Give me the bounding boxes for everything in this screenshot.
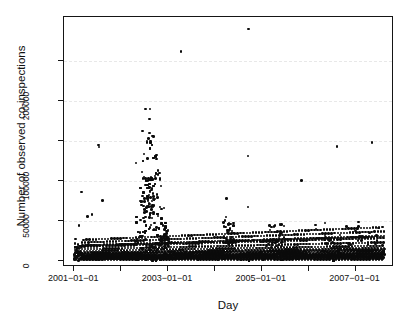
data-point bbox=[197, 259, 200, 262]
data-point bbox=[148, 132, 151, 135]
data-point bbox=[139, 231, 142, 234]
plot-area bbox=[64, 17, 392, 265]
data-point bbox=[261, 241, 264, 244]
data-point bbox=[151, 217, 154, 220]
data-point bbox=[141, 195, 144, 198]
data-point bbox=[293, 253, 296, 256]
data-point bbox=[101, 199, 104, 202]
data-point bbox=[381, 226, 384, 229]
x-axis-title: Day bbox=[63, 299, 393, 311]
data-point bbox=[98, 146, 101, 149]
data-point bbox=[300, 179, 303, 182]
data-point bbox=[333, 232, 336, 235]
data-point bbox=[144, 231, 147, 234]
data-point bbox=[308, 243, 311, 246]
data-point bbox=[148, 248, 151, 251]
data-point bbox=[247, 155, 250, 158]
data-point bbox=[226, 230, 229, 233]
y-axis-tick bbox=[58, 180, 63, 181]
data-point bbox=[222, 236, 225, 239]
data-point bbox=[143, 220, 146, 223]
data-point bbox=[225, 197, 228, 200]
data-point bbox=[135, 221, 138, 224]
data-point bbox=[377, 230, 380, 233]
data-point bbox=[379, 256, 382, 259]
data-point bbox=[179, 238, 182, 241]
data-point bbox=[258, 231, 261, 234]
gridline bbox=[64, 141, 392, 142]
data-point bbox=[150, 208, 153, 211]
data-point bbox=[125, 237, 128, 240]
data-point bbox=[248, 259, 251, 262]
data-point bbox=[148, 179, 151, 182]
data-point bbox=[224, 226, 227, 229]
data-point bbox=[225, 216, 228, 219]
data-point bbox=[383, 253, 386, 256]
data-point bbox=[139, 235, 142, 238]
data-point bbox=[375, 234, 378, 237]
data-point bbox=[151, 187, 154, 190]
data-point bbox=[300, 233, 303, 236]
data-point bbox=[87, 256, 90, 259]
data-point bbox=[269, 234, 272, 237]
y-axis-tick-label: 0 bbox=[21, 263, 31, 268]
data-point bbox=[165, 232, 168, 235]
data-point bbox=[314, 255, 317, 258]
data-point bbox=[151, 259, 154, 262]
data-point bbox=[148, 216, 151, 219]
data-point bbox=[382, 256, 385, 259]
data-point bbox=[149, 140, 152, 143]
data-point bbox=[275, 231, 278, 234]
y-axis-tick bbox=[58, 60, 63, 61]
data-point bbox=[155, 259, 158, 262]
data-point bbox=[145, 224, 148, 227]
data-point bbox=[266, 239, 269, 242]
data-point bbox=[309, 233, 312, 236]
data-point bbox=[360, 239, 363, 242]
data-point bbox=[331, 241, 334, 244]
data-point bbox=[332, 259, 335, 262]
data-point bbox=[148, 186, 151, 189]
data-point bbox=[235, 236, 238, 239]
data-point bbox=[189, 237, 192, 240]
data-point bbox=[354, 230, 357, 233]
data-point bbox=[183, 238, 186, 241]
x-axis-tick bbox=[355, 266, 356, 271]
data-point bbox=[145, 210, 148, 213]
data-point bbox=[152, 135, 155, 138]
data-point bbox=[352, 231, 355, 234]
data-point bbox=[383, 230, 386, 233]
data-point bbox=[145, 258, 148, 261]
data-point bbox=[318, 243, 321, 246]
data-point bbox=[284, 256, 287, 259]
data-point bbox=[149, 212, 152, 215]
data-point bbox=[325, 242, 328, 245]
data-point bbox=[357, 239, 360, 242]
data-point bbox=[252, 231, 255, 234]
data-point bbox=[152, 213, 155, 216]
data-point bbox=[159, 177, 162, 180]
data-point bbox=[242, 232, 245, 235]
data-point bbox=[101, 238, 104, 241]
gridline bbox=[64, 181, 392, 182]
data-point bbox=[280, 241, 283, 244]
data-point bbox=[144, 238, 147, 241]
data-point bbox=[198, 254, 201, 257]
data-point bbox=[326, 228, 329, 231]
y-axis-title: Number of observed co-inspections bbox=[15, 11, 27, 261]
data-point bbox=[149, 196, 152, 199]
data-point bbox=[166, 230, 169, 233]
data-point bbox=[323, 228, 326, 231]
data-point bbox=[319, 229, 322, 232]
data-point bbox=[152, 157, 155, 160]
data-point bbox=[289, 230, 292, 233]
data-point bbox=[346, 232, 349, 235]
data-point bbox=[358, 242, 361, 245]
data-point bbox=[263, 235, 266, 238]
data-point bbox=[135, 162, 138, 165]
data-point bbox=[247, 206, 250, 209]
data-point bbox=[230, 236, 233, 239]
data-point bbox=[321, 242, 324, 245]
data-point bbox=[153, 222, 156, 225]
data-point bbox=[287, 251, 290, 254]
